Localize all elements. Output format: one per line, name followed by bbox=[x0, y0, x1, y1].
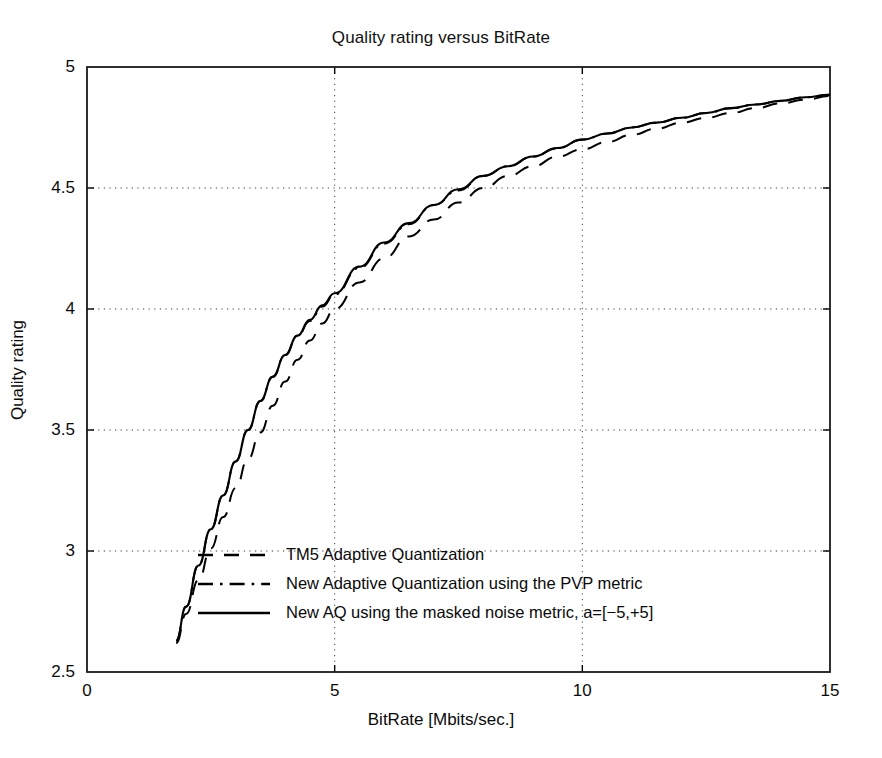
x-tick-label: 15 bbox=[821, 681, 840, 701]
legend-line-swatch-dashed-icon bbox=[196, 546, 272, 564]
plot-canvas bbox=[0, 0, 882, 758]
chart-legend: TM5 Adaptive QuantizationNew Adaptive Qu… bbox=[196, 540, 736, 627]
legend-line-swatch-dash-dot-icon bbox=[196, 575, 272, 593]
legend-entry: New AQ using the masked noise metric, a=… bbox=[196, 598, 736, 627]
y-tick-label: 4 bbox=[0, 299, 75, 319]
y-axis-label: Quality rating bbox=[8, 320, 28, 420]
x-tick-label: 10 bbox=[573, 681, 592, 701]
legend-line-swatch-solid-icon bbox=[196, 604, 272, 622]
x-axis-label: BitRate [Mbits/sec.] bbox=[0, 710, 882, 730]
legend-entry: TM5 Adaptive Quantization bbox=[196, 540, 736, 569]
y-tick-label: 3 bbox=[0, 541, 75, 561]
chart-figure: Quality rating versus BitRate 2.533.544.… bbox=[0, 0, 882, 758]
y-tick-label: 3.5 bbox=[0, 420, 75, 440]
x-tick-label: 5 bbox=[330, 681, 339, 701]
legend-entry: New Adaptive Quantization using the PVP … bbox=[196, 569, 736, 598]
y-tick-label: 5 bbox=[0, 57, 75, 77]
x-tick-label: 0 bbox=[82, 681, 91, 701]
legend-label: TM5 Adaptive Quantization bbox=[286, 545, 484, 564]
legend-label: New AQ using the masked noise metric, a=… bbox=[286, 603, 653, 622]
y-tick-label: 2.5 bbox=[0, 662, 75, 682]
legend-label: New Adaptive Quantization using the PVP … bbox=[286, 574, 642, 593]
y-tick-label: 4.5 bbox=[0, 178, 75, 198]
